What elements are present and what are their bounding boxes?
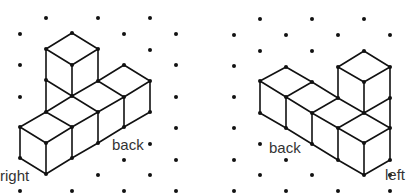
isometric-dot-paper [0,0,414,195]
label-right: right [0,168,29,183]
label-back-left-figure: back [112,137,144,152]
label-left: left [385,167,405,182]
right-cube-structure [258,49,392,177]
left-cube-structure [18,31,152,176]
dot-grid [18,16,392,193]
label-back-right-figure: back [269,140,301,155]
